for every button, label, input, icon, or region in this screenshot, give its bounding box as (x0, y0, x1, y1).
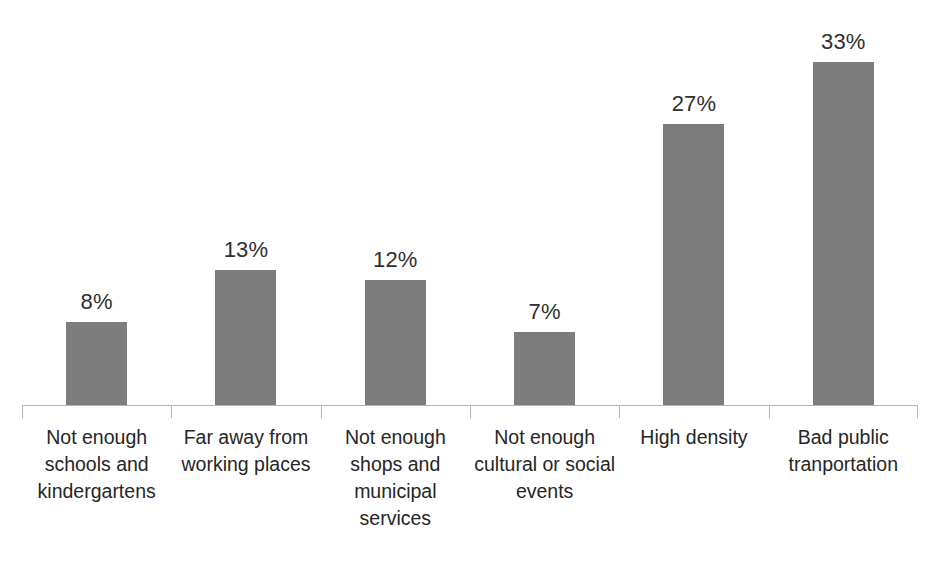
x-axis-tick-5 (769, 405, 770, 418)
category-label-0: Not enough schools and kindergartens (22, 424, 171, 505)
bar-group-1: 13% (171, 10, 320, 405)
bar-3 (514, 332, 575, 405)
bar-value-label-5: 33% (821, 31, 866, 53)
bar-group-5: 33% (769, 10, 918, 405)
bar-1 (215, 270, 276, 405)
bar-chart-figure: 8% 13% 12% 7% 27% 33% (0, 0, 939, 564)
bar-0 (66, 322, 127, 405)
x-axis-tick-1 (171, 405, 172, 418)
category-label-1: Far away from working places (171, 424, 320, 478)
bar-group-3: 7% (470, 10, 619, 405)
bar-group-2: 12% (321, 10, 470, 405)
bar-value-label-4: 27% (672, 93, 717, 115)
bar-value-label-1: 13% (224, 239, 269, 261)
bar-value-label-0: 8% (81, 291, 113, 313)
bar-value-label-3: 7% (529, 301, 561, 323)
bar-4 (663, 124, 724, 405)
bar-2 (365, 280, 426, 405)
x-axis-tick-0 (22, 405, 23, 418)
category-label-3: Not enough cultural or social events (470, 424, 619, 505)
bars-container: 8% 13% 12% 7% 27% 33% (22, 10, 918, 405)
x-axis-tick-3 (470, 405, 471, 418)
x-axis-tick-4 (619, 405, 620, 418)
bar-group-4: 27% (619, 10, 768, 405)
x-axis-tick-2 (321, 405, 322, 418)
plot-area: 8% 13% 12% 7% 27% 33% (22, 10, 918, 405)
x-axis-category-labels: Not enough schools and kindergartens Far… (22, 424, 918, 532)
category-label-2: Not enough shops and municipal services (321, 424, 470, 532)
category-label-5: Bad public tranportation (769, 424, 918, 478)
bar-group-0: 8% (22, 10, 171, 405)
category-label-4: High density (619, 424, 768, 451)
bar-5 (813, 62, 874, 405)
x-axis-tick-6 (917, 405, 918, 418)
bar-value-label-2: 12% (373, 249, 418, 271)
x-axis-ticks (22, 405, 918, 418)
